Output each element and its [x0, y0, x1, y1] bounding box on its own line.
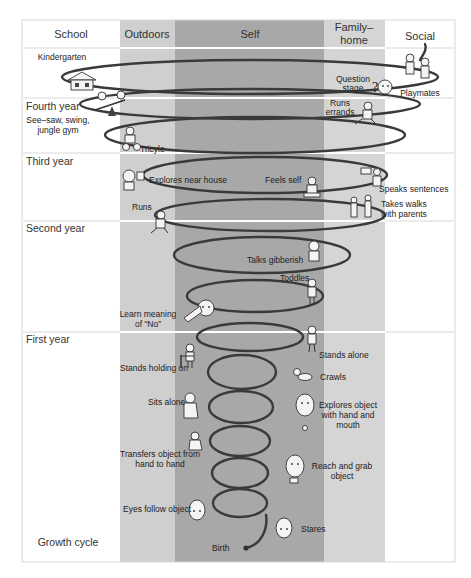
label-learn-no-1: Learn meaning [120, 309, 177, 319]
header-social: Social [405, 30, 435, 42]
row-sublabel-seesaw-2: jungle gym [36, 125, 78, 135]
header-outdoors: Outdoors [124, 28, 170, 40]
label-reach-grab-2: object [331, 471, 354, 481]
label-talks-gibberish: Talks gibberish [247, 255, 303, 265]
row-sublabel-seesaw-1: See–saw, swing, [26, 115, 89, 125]
label-explores-object-2: with hand and [321, 410, 375, 420]
question-mark-icon: ? [372, 80, 378, 95]
label-kindergarten: Kindergarten [38, 52, 87, 62]
label-explores-near-house: Explores near house [149, 175, 227, 185]
outdoors-column [120, 20, 175, 562]
column-backgrounds [22, 20, 455, 562]
header-school: School [54, 28, 88, 40]
label-tricyle: Tricyle [140, 144, 165, 154]
self-column [175, 20, 324, 562]
stares-face-icon [276, 518, 292, 538]
label-explores-object-3: mouth [336, 420, 360, 430]
label-stares: Stares [301, 524, 326, 534]
label-crawls: Crawls [320, 372, 346, 382]
label-speaks-sentences: Speaks sentences [379, 184, 448, 194]
label-question-stage-2: stage [343, 83, 364, 93]
label-stands-holding-on: Stands holding on [120, 363, 188, 373]
label-eyes-follow: Eyes follow object [123, 504, 192, 514]
talks-gibberish-icon [309, 241, 319, 261]
label-stands-alone: Stands alone [319, 350, 369, 360]
label-transfers-1: Transfers object from [120, 449, 200, 459]
label-runs-errands-2: errands [326, 107, 355, 117]
eyes-follow-face-icon [189, 500, 205, 520]
label-takes-walks-2: with parents [380, 209, 427, 219]
social-column [385, 20, 455, 562]
label-birth: Birth [212, 543, 230, 553]
header-self: Self [241, 28, 261, 40]
row-label-first-year: First year [26, 333, 70, 345]
row-label-second-year: Second year [26, 222, 85, 234]
birth-dot [243, 545, 248, 550]
question-face-icon [378, 80, 392, 94]
label-transfers-2: hand to hand [135, 459, 185, 469]
label-playmates: Playmates [400, 88, 440, 98]
growth-cycle-diagram: School Outdoors Self Family– home Social… [0, 0, 471, 578]
header-family-line1: Family– [335, 21, 374, 33]
label-explores-object-1: Explores object [319, 400, 378, 410]
row-label-third-year: Third year [26, 155, 74, 167]
label-takes-walks-1: Takes walks [381, 199, 427, 209]
label-sits-alone: Sits alone [148, 397, 186, 407]
label-runs: Runs [132, 202, 152, 212]
diagram-title-growth-cycle: Growth cycle [38, 536, 99, 548]
label-reach-grab-1: Reach and grab [312, 461, 373, 471]
label-learn-no-2: of “No” [135, 319, 161, 329]
label-feels-self: Feels self [265, 175, 302, 185]
label-toddles: Toddles [280, 273, 309, 283]
header-family-line2: home [340, 34, 368, 46]
row-label-fourth-year: Fourth year [26, 100, 80, 112]
